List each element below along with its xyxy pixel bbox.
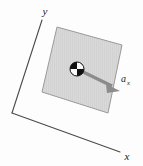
diagram-canvas: y x a x [0, 0, 143, 166]
physics-diagram-figure: y x a x [0, 0, 143, 166]
acceleration-label-subscript: x [126, 79, 130, 86]
center-of-mass-marker [70, 62, 84, 76]
x-axis-label: x [124, 150, 130, 162]
y-axis-label: y [42, 5, 48, 17]
acceleration-label-main: a [121, 73, 126, 84]
